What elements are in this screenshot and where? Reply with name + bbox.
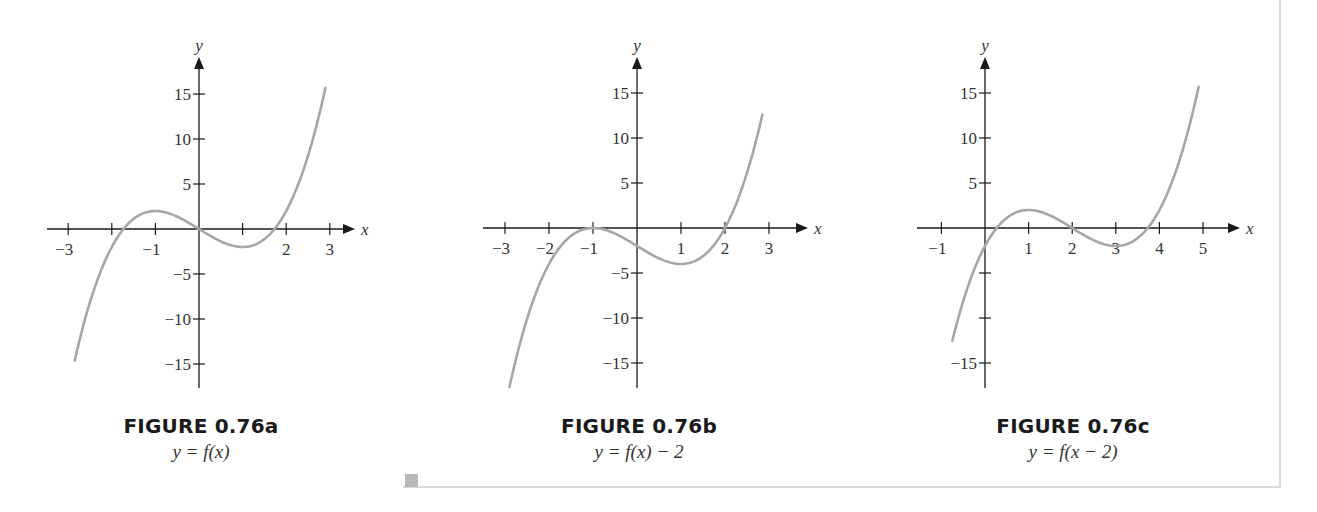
y-axis-arrow-icon <box>632 57 642 69</box>
x-axis-arrow-icon <box>1228 223 1240 233</box>
figure-title: FIGURE 0.76b <box>489 414 789 438</box>
y-axis-label: y <box>979 36 989 55</box>
y-axis-label: y <box>631 36 641 55</box>
figure-equation: y = f(x) <box>51 440 351 464</box>
y-tick-label: 10 <box>174 130 191 149</box>
y-tick-label: 10 <box>960 129 977 148</box>
x-tick-label: −2 <box>536 239 554 258</box>
x-axis-arrow-icon <box>343 224 355 234</box>
caption-figure-b: FIGURE 0.76b y = f(x) − 2 <box>489 414 789 464</box>
caption-figure-a: FIGURE 0.76a y = f(x) <box>51 414 351 464</box>
y-tick-label: 15 <box>960 84 977 103</box>
y-tick-label: −15 <box>950 354 977 373</box>
x-tick-label: 5 <box>1199 239 1208 258</box>
chart-figure-a: xy−3−123−15−10−551015 <box>47 36 369 388</box>
x-tick-label: 2 <box>282 240 291 259</box>
y-tick-label: −15 <box>164 355 191 374</box>
y-tick-label: 15 <box>174 85 191 104</box>
x-tick-label: −3 <box>55 240 73 259</box>
x-tick-label: 4 <box>1155 239 1164 258</box>
y-axis-arrow-icon <box>980 57 990 69</box>
y-tick-label: 5 <box>183 175 192 194</box>
figure-equation: y = f(x − 2) <box>923 440 1223 464</box>
y-axis-label: y <box>193 36 203 55</box>
y-tick-label: −10 <box>602 309 629 328</box>
caption-figure-c: FIGURE 0.76c y = f(x − 2) <box>923 414 1223 464</box>
x-axis-label: x <box>1245 219 1254 238</box>
y-tick-label: 15 <box>612 84 629 103</box>
figure-equation: y = f(x) − 2 <box>489 440 789 464</box>
figure-title: FIGURE 0.76a <box>51 414 351 438</box>
x-tick-label: −1 <box>142 240 160 259</box>
x-axis-label: x <box>360 220 369 239</box>
y-tick-label: 5 <box>621 174 630 193</box>
x-axis-arrow-icon <box>796 223 808 233</box>
x-tick-label: −1 <box>580 239 598 258</box>
y-tick-label: 10 <box>612 129 629 148</box>
x-tick-label: 3 <box>1112 239 1121 258</box>
x-tick-label: 2 <box>721 239 730 258</box>
y-tick-label: −15 <box>602 354 629 373</box>
y-tick-label: −5 <box>611 264 629 283</box>
x-tick-label: 2 <box>1068 239 1077 258</box>
x-axis-label: x <box>813 219 822 238</box>
y-tick-label: −5 <box>173 265 191 284</box>
y-tick-label: 5 <box>969 174 978 193</box>
x-tick-label: −1 <box>928 239 946 258</box>
y-tick-label: −10 <box>164 310 191 329</box>
x-tick-label: 3 <box>326 240 335 259</box>
chart-figure-c: xy−112345−1551015 <box>917 36 1254 388</box>
x-tick-label: 1 <box>677 239 686 258</box>
figure-title: FIGURE 0.76c <box>923 414 1223 438</box>
x-tick-label: −3 <box>492 239 510 258</box>
chart-figure-b: xy−3−2−1123−15−10−551015 <box>483 36 822 388</box>
y-axis-arrow-icon <box>194 57 204 69</box>
function-curve <box>952 87 1198 341</box>
x-tick-label: 3 <box>765 239 774 258</box>
frame-border-right <box>1279 0 1281 488</box>
x-tick-label: 1 <box>1024 239 1033 258</box>
end-of-example-marker <box>405 474 418 487</box>
frame-border-bottom <box>403 486 1281 488</box>
